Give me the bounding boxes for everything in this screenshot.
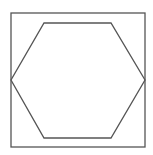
outer-square [11, 13, 145, 147]
diagram-canvas [0, 0, 153, 155]
inscribed-hexagon [11, 23, 145, 138]
